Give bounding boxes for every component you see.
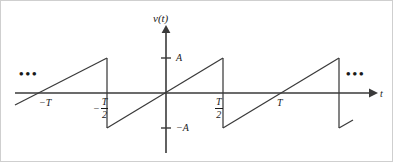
x-tick-label-minus-T: −T	[39, 98, 51, 108]
ellipsis-left: •••	[19, 67, 39, 80]
fraction-denominator: 2	[101, 110, 108, 120]
fraction-stack: T 2	[215, 97, 223, 120]
fraction-stack: T 2	[101, 97, 109, 120]
x-tick-label-T: T	[277, 98, 283, 108]
x-axis-arrowhead	[369, 89, 378, 98]
y-tick-label-minus-A: −A	[176, 123, 189, 133]
x-tick-label-minus-T-over-2: − T 2	[93, 97, 108, 120]
x-axis-label: t	[380, 89, 383, 99]
x-tick-label-T-over-2: T 2	[214, 97, 223, 120]
axes-group	[15, 33, 369, 153]
y-tick-label-A: A	[176, 53, 182, 63]
plot-canvas	[1, 1, 393, 162]
fraction-numerator: T	[101, 97, 109, 107]
fraction-sign: −	[93, 104, 100, 114]
y-axis-arrowhead	[162, 25, 171, 33]
ramp-segment-3	[339, 120, 353, 128]
fraction-denominator: 2	[215, 110, 222, 120]
ellipsis-right: •••	[346, 67, 366, 80]
sawtooth-waveform-figure: v(t) t A −A −T − T 2 T 2 T ••• •••	[0, 0, 393, 162]
fraction-numerator: T	[215, 97, 223, 107]
y-axis-label: v(t)	[153, 13, 168, 24]
